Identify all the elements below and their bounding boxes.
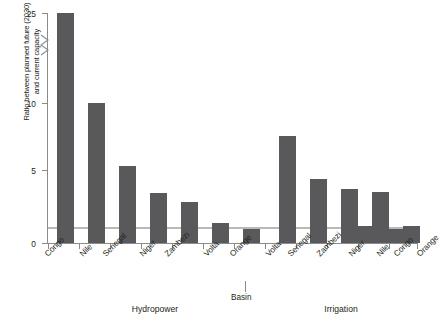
y-axis-title: Ratio between planned future (2030) and …	[22, 0, 41, 162]
y-tick-label-25: 25	[8, 9, 36, 19]
y-tick-25	[42, 13, 47, 14]
y-tick-0	[42, 243, 47, 244]
y-tick-label-5: 5	[8, 166, 36, 176]
x-label-hydropower-nile: Nile	[78, 242, 94, 258]
y-tick-10	[42, 103, 47, 104]
y-tick-label-10: 10	[8, 99, 36, 109]
group-separator-tick	[245, 281, 246, 292]
y-tick-5	[42, 170, 47, 171]
bar-irrigation-congo-r	[383, 229, 400, 243]
x-axis-title: Basin	[231, 293, 251, 302]
group-label-hydropower: Hydropower	[110, 304, 200, 314]
plot-area-last	[48, 13, 418, 243]
group-label-irrigation: Irrigation	[296, 304, 386, 314]
y-tick-label-0: 0	[8, 239, 36, 249]
